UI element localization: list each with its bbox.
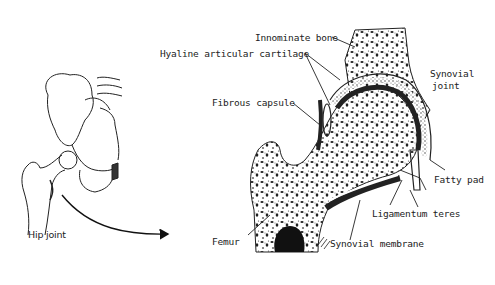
label-fibrous-capsule: Fibrous capsule (212, 97, 295, 108)
label-fatty-pad: Fatty pad (434, 174, 484, 185)
pelvis-sketch (22, 74, 122, 235)
label-hyaline-cartilage: Hyaline articular cartilage (160, 48, 309, 59)
label-innominate-bone: Innominate bone (255, 32, 338, 43)
label-synovial-joint-2: joint (432, 80, 460, 91)
label-synovial-joint-1: Synovial (430, 68, 474, 79)
label-femur: Femur (212, 236, 240, 247)
pointer-arrow (62, 195, 168, 234)
label-ligamentum-teres: Ligamentum teres (372, 208, 460, 219)
label-synovial-membrane: Synovial membrane (330, 238, 424, 249)
label-hip-joint: Hip joint (28, 229, 66, 240)
